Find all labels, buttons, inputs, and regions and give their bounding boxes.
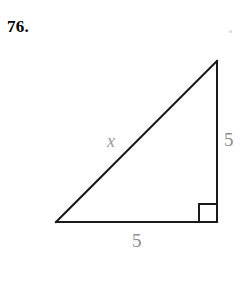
hypotenuse-line	[56, 61, 217, 222]
horizontal-leg-label: 5	[132, 231, 142, 250]
right-triangle-figure	[0, 0, 247, 295]
hypotenuse-label: x	[107, 132, 115, 151]
right-angle-marker-icon	[199, 204, 217, 222]
vertical-leg-label: 5	[224, 130, 234, 149]
worksheet-page: 76. 5 5 x	[0, 0, 247, 295]
scan-speck	[229, 30, 232, 33]
